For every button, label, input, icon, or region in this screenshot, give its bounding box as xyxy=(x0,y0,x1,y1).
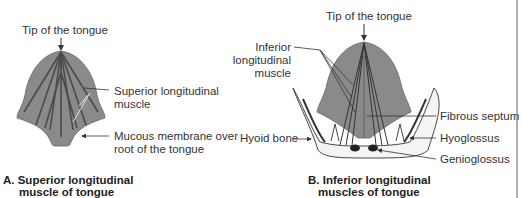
genioglossus-left xyxy=(350,145,360,152)
label-inferior-1: Inferior xyxy=(255,41,291,53)
label-hyoid: Hyoid bone xyxy=(240,132,298,144)
caption-b-2: muscles of tongue xyxy=(318,186,420,198)
label-genioglossus: Genioglossus xyxy=(440,153,510,165)
label-tip-b: Tip of the tongue xyxy=(326,10,412,22)
panel-b: Tip of the tongue Inferior longitudinal … xyxy=(233,10,519,198)
label-inferior-2: longitudinal xyxy=(233,54,291,66)
panel-a: Tip of the tongue Superior longitudinal … xyxy=(3,24,238,198)
label-mucous-2: root of the tongue xyxy=(114,143,204,155)
label-hyoglossus: Hyoglossus xyxy=(440,132,500,144)
caption-a-1: A. Superior longitudinal xyxy=(3,174,133,186)
label-tip-a: Tip of the tongue xyxy=(22,24,108,36)
genioglossus-right xyxy=(368,145,378,152)
caption-a-2: muscle of tongue xyxy=(19,186,114,198)
label-mucous-1: Mucous membrane over xyxy=(114,130,238,142)
label-septum: Fibrous septum xyxy=(440,110,519,122)
label-inferior-3: muscle xyxy=(255,67,291,79)
caption-b-1: B. Inferior longitudinal xyxy=(308,174,431,186)
diagram-canvas: Tip of the tongue Superior longitudinal … xyxy=(0,0,522,198)
label-superior-2: muscle xyxy=(114,98,150,110)
label-superior-1: Superior longitudinal xyxy=(114,85,219,97)
